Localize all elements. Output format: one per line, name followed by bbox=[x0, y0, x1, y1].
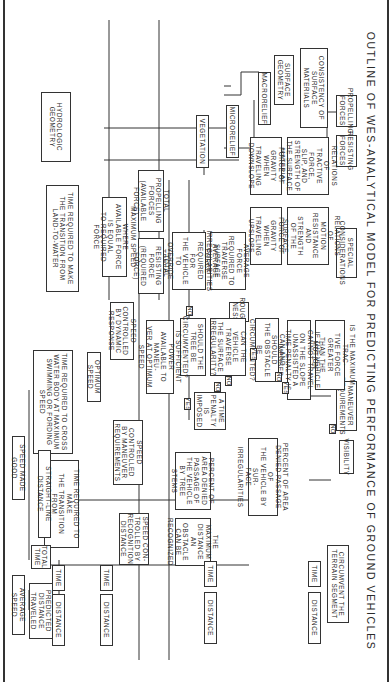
speed-dynamic-response-box: SPEED CONTROLLED BY DYNAMIC RESPONSE bbox=[110, 302, 134, 360]
pct-area-surface-box: PERCENT OF AREA DENIED PASSAGE OF THE VE… bbox=[248, 438, 278, 516]
yes-tag-roughness: YES bbox=[250, 348, 257, 360]
diagram-canvas: OUTLINE OF WES-ANALYTICAL MODEL FOR PRED… bbox=[0, 0, 389, 682]
relations-tractive-force-box: RELATIONS OF TRACTIVE FORCE, SLIP, AND S… bbox=[287, 137, 329, 195]
no-tag-traverse: NO bbox=[225, 376, 232, 386]
no-tag-tractive: NO bbox=[329, 424, 336, 434]
time-box-3: TIME bbox=[100, 565, 113, 591]
time-box-2: TIME bbox=[204, 561, 217, 587]
max-distance-obstacle-box: THE MAXIMUM DISTANCE AN OBSTACLE CAN BE … bbox=[175, 518, 211, 566]
time-land-to-water-box: TIME REQUIRED TO MAKE THE TRANSITION FRO… bbox=[46, 185, 79, 292]
no-tag-penalty: NO bbox=[214, 382, 221, 392]
propelling-forces-box: PROPELLING FORCES bbox=[336, 95, 357, 127]
distance-box-1: DISTANCE bbox=[308, 592, 321, 644]
gravity-upslope-box: FORCE OF GRAVITY WHEN TRAVELING UPSLOPE bbox=[250, 207, 282, 265]
time-box-4: TIME bbox=[52, 565, 65, 591]
time-penalty-box: A TIME PENALTY IS IMPOSED bbox=[194, 392, 226, 430]
optimum-speed-box: OPTIMUM SPEED bbox=[87, 352, 101, 402]
relations-motion-resistance-box: RELATIONS OF MOTION RESISTANCE AND STREN… bbox=[287, 207, 329, 265]
distance-box-4: DISTANCE bbox=[52, 594, 65, 646]
distance-box-2: DISTANCE bbox=[204, 592, 217, 644]
can-traverse-question-box: CAN THE VEHICLE TRAVERSE THE SURFACE IRR… bbox=[210, 318, 246, 376]
max-speed-box: MAXIMUM SPEED WHERE AVAILABLE FORCE IS E… bbox=[102, 197, 127, 277]
tree-circumvent-question-box: SHOULD THE TREE BE CIRCUMVENTED? bbox=[180, 318, 206, 376]
visibility-box: VISIBILITY bbox=[339, 440, 354, 474]
total-propelling-forces-box: TOTAL PROPELLING FORCES (AVAILABLE FORCE… bbox=[138, 170, 164, 232]
total-resisting-force-box: TOTAL RESISTING FORCE (REQUIRED FORCE) bbox=[138, 238, 164, 294]
consistency-surface-materials-box: CONSISTENCY OF SURFACE MATERIALS bbox=[300, 48, 328, 128]
avg-force-trees-box: AVERAGE FORCE REQUIRED FOR THE VEHICLE T… bbox=[172, 232, 206, 290]
macrorelief-box: MACRORELIEF bbox=[258, 72, 271, 125]
surface-geometry-box: SURFACE GEOMETRY bbox=[274, 55, 294, 105]
speed-made-good-box: SPEED MADE GOOD bbox=[12, 436, 25, 500]
average-speed-box: AVERAGE SPEED bbox=[12, 575, 25, 635]
distance-box-3: DISTANCE bbox=[100, 594, 113, 646]
pct-area-trees-box: PERCENT OF AREA DENIED PASSAGE OF THE VE… bbox=[175, 452, 211, 510]
speed-maneuver-requirements-box: SPEED CONTROLLED BY MANEUVER REQUIREMENT… bbox=[113, 420, 143, 485]
yes-tag-tree: YES bbox=[184, 398, 191, 410]
time-box-1: TIME bbox=[308, 561, 321, 587]
predicted-distance-traveled-box: PREDICTED DISTANCE TRAVELED bbox=[29, 583, 53, 639]
no-tag-tree: NO bbox=[186, 306, 193, 316]
circumvent-terrain-segment-box: CIRCUMVENT THE TERRAIN SEGMENT bbox=[327, 545, 349, 623]
vegetation-box: VEGETATION bbox=[196, 115, 209, 168]
speed-recognition-distance-box: SPEED CON- TROLLED BY RECOGNITION DISTAN… bbox=[119, 513, 149, 565]
microrelief-box: MICRORELIEF bbox=[226, 105, 239, 158]
sufficient-power-question-box: IS SUFFICIENT POWER AVAILABLE TO MANEU- … bbox=[146, 320, 174, 394]
hydrologic-geometry-box: HYDROLOGIC GEOMETRY bbox=[41, 92, 71, 162]
resisting-forces-box: RESISTING FORCES bbox=[336, 135, 357, 167]
total-time-box: TOTAL TIME bbox=[31, 545, 51, 569]
no-tag-obstacle: NO bbox=[275, 372, 282, 382]
straight-line-distance-box: STRAIGHT-LINE DISTANCE bbox=[38, 450, 51, 538]
time-cross-water-box: TIME REQUIRED TO CROSS WATER BODY AT MAX… bbox=[33, 350, 73, 454]
yes-tag-obstacle: YES bbox=[282, 382, 289, 394]
gravity-downslope-box: FORCE OF GRAVITY WHEN TRAVELING DOWNSLOP… bbox=[250, 137, 282, 195]
slope-penalty-box: IF THE VEHICLE CANNOT TRAVEL ON THE SLOP… bbox=[287, 320, 311, 400]
